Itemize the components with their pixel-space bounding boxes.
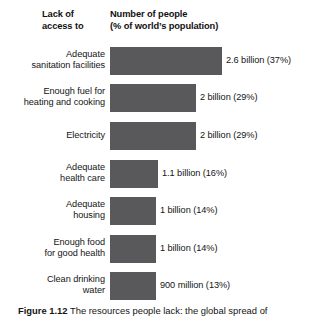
bar-category-label: Enough foodfor good health xyxy=(3,237,105,260)
bar-category-label-line: Clean drinking xyxy=(3,274,105,285)
bar-value-label: 2 billion (29%) xyxy=(200,130,257,141)
bar xyxy=(110,160,158,188)
bar-value-label: 1.1 billion (16%) xyxy=(162,168,227,179)
bar-category-label-line: sanitation facilities xyxy=(3,60,105,71)
bar-category-label: Clean drinkingwater xyxy=(3,274,105,297)
bar-row: Adequatesanitation facilities2.6 billion… xyxy=(0,47,327,75)
bar-value-label: 900 million (13%) xyxy=(160,280,230,291)
bar-category-label-line: Adequate xyxy=(3,162,105,173)
bar-row: Electricity2 billion (29%) xyxy=(0,122,327,150)
bar-category-label-line: health care xyxy=(3,173,105,184)
bar xyxy=(110,47,222,75)
figure-caption-number: Figure 1.12 xyxy=(18,305,68,316)
bar xyxy=(110,122,196,150)
bar-row: Adequatehealth care1.1 billion (16%) xyxy=(0,160,327,188)
bar-row: Clean drinkingwater900 million (13%) xyxy=(0,272,327,300)
bar-category-label-line: Adequate xyxy=(3,49,105,60)
bar-category-label: Adequatehousing xyxy=(3,199,105,222)
bar-category-label-line: Enough food xyxy=(3,237,105,248)
bar-value-label: 1 billion (14%) xyxy=(160,205,217,216)
bar-value-label: 1 billion (14%) xyxy=(160,243,217,254)
figure-caption: Figure 1.12 The resources people lack: t… xyxy=(18,305,318,317)
bar-value-label: 2 billion (29%) xyxy=(200,92,257,103)
bar xyxy=(110,272,156,300)
bar-category-label-line: Adequate xyxy=(3,199,105,210)
bar-category-label-line: housing xyxy=(3,210,105,221)
bar-row: Enough fuel forheating and cooking2 bill… xyxy=(0,84,327,112)
bar-category-label-line: Electricity xyxy=(3,130,105,141)
bar-category-label-line: for good health xyxy=(3,248,105,259)
bar xyxy=(110,84,196,112)
bar-category-label: Electricity xyxy=(3,130,105,141)
bar-category-label: Adequatehealth care xyxy=(3,162,105,185)
bar-row: Enough foodfor good health1 billion (14%… xyxy=(0,235,327,263)
bar xyxy=(110,235,156,263)
bar-value-label: 2.6 billion (37%) xyxy=(226,55,291,66)
bar-category-label-line: water xyxy=(3,285,105,296)
bar-category-label-line: Enough fuel for xyxy=(3,86,105,97)
bar-category-label: Adequatesanitation facilities xyxy=(3,49,105,72)
bar-category-label-line: heating and cooking xyxy=(3,97,105,108)
bar-category-label: Enough fuel forheating and cooking xyxy=(3,86,105,109)
bar xyxy=(110,197,156,225)
figure-caption-text: The resources people lack: the global sp… xyxy=(70,305,268,316)
bar-row: Adequatehousing1 billion (14%) xyxy=(0,197,327,225)
